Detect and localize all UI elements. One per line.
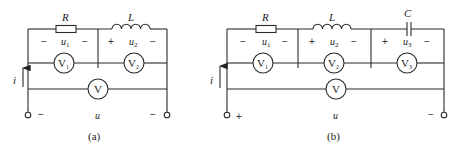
wires-a xyxy=(28,29,167,112)
voltmeter-v-b: V xyxy=(326,79,346,99)
capacitor-c-b xyxy=(407,22,411,36)
svg-text:V: V xyxy=(332,83,340,95)
sign-u1-right-b: − xyxy=(282,36,288,47)
label-c-b: C xyxy=(404,7,412,19)
inductor-l-a xyxy=(112,24,150,29)
voltmeter-v-a: V xyxy=(88,79,108,99)
label-current-b: i xyxy=(210,74,213,86)
sign-u2-right-a: − xyxy=(150,36,156,47)
label-current-a: i xyxy=(13,74,16,86)
terminal-right-a xyxy=(164,112,170,118)
voltmeter-v2-b: V2 xyxy=(324,53,344,73)
sign-terminal-right-b: − xyxy=(428,109,434,120)
terminal-left-a xyxy=(25,112,31,118)
label-u-a: u xyxy=(95,110,100,121)
voltmeter-v2-a: V2 xyxy=(124,53,144,73)
circuit-b: R L C − u1 − + u2 − + u3 − V1 V2 xyxy=(210,7,447,143)
sign-u1-left-b: − xyxy=(240,36,246,47)
label-u-b: u xyxy=(333,110,338,121)
label-r-b: R xyxy=(261,11,269,23)
sign-u3-right-b: − xyxy=(424,36,430,47)
sign-u3-left-b: + xyxy=(382,36,388,47)
caption-a: (a) xyxy=(88,130,101,143)
label-u2-b: u2 xyxy=(330,36,339,49)
sign-u2-left-a: + xyxy=(108,36,114,47)
voltmeter-v1-b: V1 xyxy=(253,53,273,73)
sign-terminal-right-a: − xyxy=(150,109,156,120)
circuit-figure: R L − u1 − + u2 − V1 V2 V i − − u xyxy=(0,0,458,155)
circuit-a: R L − u1 − + u2 − V1 V2 V i − − u xyxy=(13,11,170,143)
sign-u1-right-a: − xyxy=(82,36,88,47)
sign-terminal-left-a: − xyxy=(38,109,44,120)
resistor-r-b xyxy=(256,26,276,33)
label-l-a: L xyxy=(127,11,134,23)
sign-terminal-left-b: + xyxy=(236,111,242,122)
label-u1-b: u1 xyxy=(262,36,271,49)
inductor-l-b xyxy=(313,24,351,29)
label-r-a: R xyxy=(61,11,69,23)
label-u2-a: u2 xyxy=(129,36,138,49)
terminal-left-b xyxy=(224,112,230,118)
label-u1-a: u1 xyxy=(61,36,70,49)
svg-text:V: V xyxy=(94,83,102,95)
label-u3-b: u3 xyxy=(403,36,412,49)
label-l-b: L xyxy=(328,11,335,23)
terminal-right-b xyxy=(441,112,447,118)
caption-b: (b) xyxy=(327,130,340,143)
sign-u2-right-b: − xyxy=(351,36,357,47)
voltmeter-v3-b: V3 xyxy=(397,53,417,73)
resistor-r-a xyxy=(56,26,76,33)
sign-u1-left-a: − xyxy=(41,36,47,47)
voltmeter-v1-a: V1 xyxy=(54,53,74,73)
sign-u2-left-b: + xyxy=(309,36,315,47)
